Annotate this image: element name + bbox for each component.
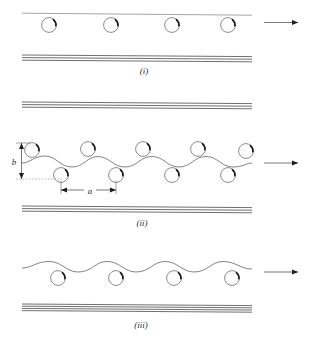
bubble [109, 168, 124, 183]
panel-iii-label: (iii) [134, 320, 148, 330]
bubble [191, 142, 206, 157]
panel-i: (i) [22, 13, 298, 76]
bubble [167, 271, 182, 286]
dimension-a-label: a [88, 186, 93, 196]
dimension-a: a [61, 181, 116, 196]
panel-ii: b a (ii) [12, 102, 298, 228]
bubble [25, 143, 40, 158]
bubble [225, 271, 240, 286]
panel-iii-bottom-wall [22, 304, 252, 312]
panel-i-bubble-row [42, 18, 236, 33]
bubble [165, 18, 180, 33]
panel-ii-bottom-wall [22, 206, 252, 213]
figure-container: (i) [0, 0, 311, 338]
bubble [51, 271, 66, 286]
panel-i-top-wall [22, 13, 252, 15]
panel-ii-label: (ii) [137, 218, 148, 228]
panel-i-bottom-wall [22, 55, 252, 62]
dimension-b-label: b [12, 157, 17, 167]
panel-ii-top-wall [22, 102, 252, 109]
bubble [109, 271, 124, 286]
bubble [239, 144, 254, 159]
bubble [136, 142, 151, 157]
bubble [104, 18, 119, 33]
bubble [221, 18, 236, 33]
panel-iii: (iii) [22, 262, 298, 331]
technical-diagram: (i) [0, 0, 311, 338]
panel-ii-upper-bubble-row [25, 142, 254, 159]
bubble [165, 168, 180, 183]
bubble [221, 168, 236, 183]
bubble [81, 142, 96, 157]
panel-ii-lower-bubble-row [54, 168, 236, 183]
bubble [54, 168, 69, 183]
panel-i-label: (i) [140, 66, 149, 76]
panel-ii-interface [22, 156, 252, 167]
bubble [42, 18, 57, 33]
panel-iii-bubble-row [51, 271, 240, 286]
